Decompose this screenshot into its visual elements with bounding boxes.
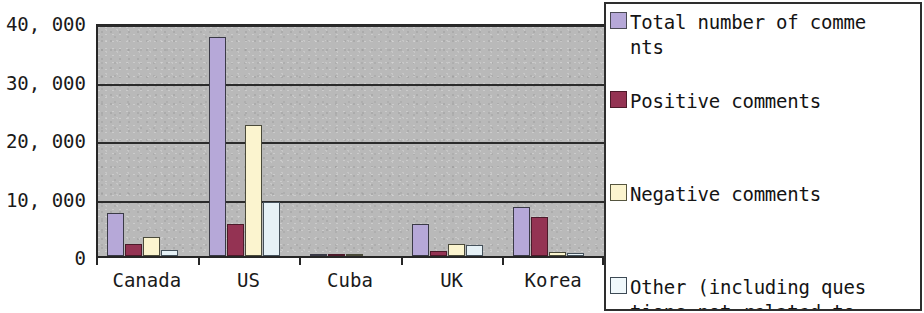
- x-axis-label-canada: Canada: [112, 269, 181, 291]
- bar-chart: 010, 00020, 00030, 00040, 000 CanadaUSCu…: [0, 0, 924, 313]
- legend-swatch-icon: [610, 184, 627, 201]
- bar-group: [513, 26, 584, 256]
- x-axis-label-cuba: Cuba: [327, 269, 373, 291]
- x-axis-tick-mark: [502, 258, 504, 265]
- bar-group: [310, 26, 381, 256]
- chart-legend: Total number of comme ntsPositive commen…: [604, 2, 922, 311]
- bar[interactable]: [310, 254, 327, 256]
- legend-label: Negative comments: [630, 182, 821, 207]
- bar[interactable]: [346, 254, 363, 256]
- x-axis-label-us: US: [237, 269, 260, 291]
- x-axis-tick-mark: [198, 258, 200, 265]
- x-axis-tick-mark: [96, 258, 98, 265]
- bar[interactable]: [143, 237, 160, 256]
- bar[interactable]: [227, 224, 244, 256]
- y-axis-tick-label: 30, 000: [6, 73, 86, 92]
- bar[interactable]: [245, 125, 262, 256]
- bar-group: [412, 26, 483, 256]
- legend-item[interactable]: Negative comments: [610, 182, 918, 207]
- bar[interactable]: [531, 217, 548, 256]
- x-axis-tick-mark: [299, 258, 301, 265]
- legend-swatch-icon: [610, 12, 627, 29]
- bar[interactable]: [549, 252, 566, 256]
- y-axis: 010, 00020, 00030, 00040, 000: [0, 0, 92, 313]
- bars-layer: [98, 26, 604, 256]
- x-axis-label-uk: UK: [440, 269, 463, 291]
- x-axis-tick-mark: [401, 258, 403, 265]
- bar-group: [107, 26, 178, 256]
- bar[interactable]: [161, 250, 178, 256]
- y-axis-tick-label: 40, 000: [6, 15, 86, 34]
- bar[interactable]: [209, 37, 226, 256]
- legend-label: Total number of comme nts: [630, 10, 866, 60]
- bar-group: [209, 26, 280, 256]
- y-axis-tick-label: 20, 000: [6, 132, 86, 151]
- y-axis-tick-label: 0: [75, 249, 86, 268]
- legend-item[interactable]: Positive comments: [610, 89, 918, 114]
- bar[interactable]: [263, 202, 280, 256]
- bar[interactable]: [567, 253, 584, 256]
- legend-item[interactable]: Total number of comme nts: [610, 10, 918, 60]
- x-axis: CanadaUSCubaUKKorea: [96, 258, 604, 313]
- legend-label: Other (including ques tions not related …: [630, 275, 866, 311]
- plot-area: [96, 24, 604, 258]
- bar[interactable]: [107, 213, 124, 256]
- bar[interactable]: [125, 244, 142, 256]
- y-axis-tick-label: 10, 000: [6, 190, 86, 209]
- bar[interactable]: [412, 224, 429, 256]
- legend-swatch-icon: [610, 91, 627, 108]
- legend-swatch-icon: [610, 277, 627, 294]
- legend-item[interactable]: Other (including ques tions not related …: [610, 275, 918, 311]
- legend-label: Positive comments: [630, 89, 821, 114]
- bar[interactable]: [513, 207, 530, 256]
- x-axis-label-korea: Korea: [525, 269, 582, 291]
- bar[interactable]: [448, 244, 465, 256]
- bar[interactable]: [466, 245, 483, 256]
- bar[interactable]: [430, 251, 447, 256]
- bar[interactable]: [328, 254, 345, 256]
